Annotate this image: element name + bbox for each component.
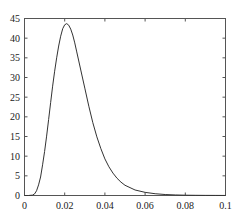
y-tick-label: 0: [15, 190, 20, 201]
y-tick-label: 10: [10, 151, 20, 162]
y-tick-label: 15: [10, 131, 20, 142]
y-tick-label: 30: [10, 72, 20, 83]
x-tick-label: 0: [22, 200, 27, 211]
y-tick-label: 35: [10, 52, 20, 63]
y-tick-label: 45: [10, 13, 20, 24]
x-tick-label: 0.08: [177, 200, 195, 211]
x-tick-label: 0.1: [219, 200, 232, 211]
y-tick-label: 20: [10, 111, 20, 122]
line-chart: 00.020.040.060.080.1 051015202530354045: [0, 0, 239, 218]
x-tick-label: 0.06: [136, 200, 154, 211]
x-tick-label: 0.02: [56, 200, 74, 211]
y-tick-label: 40: [10, 33, 20, 44]
y-tick-label: 25: [10, 92, 20, 103]
plot-area: [25, 19, 226, 196]
x-tick-label: 0.04: [96, 200, 114, 211]
y-tick-label: 5: [15, 170, 20, 181]
